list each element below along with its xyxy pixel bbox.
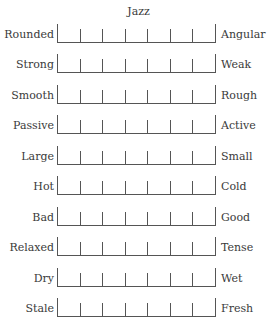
scale-row: RoundedAngular [0, 23, 269, 43]
scale-tick [192, 120, 193, 133]
scale-tick [170, 151, 171, 164]
scale-tick [147, 212, 148, 225]
rating-scale[interactable] [57, 146, 216, 165]
scale-tick [57, 24, 58, 42]
left-anchor-label: Rounded [4, 28, 54, 41]
scale-tick [215, 207, 216, 225]
scale-tick [57, 146, 58, 164]
right-anchor-label: Weak [221, 58, 251, 71]
scale-tick [102, 242, 103, 255]
scale-tick [125, 29, 126, 42]
scale-tick [57, 54, 58, 72]
rating-scale[interactable] [57, 268, 216, 287]
scale-tick [170, 90, 171, 103]
scale-tick [57, 115, 58, 133]
scale-tick [170, 59, 171, 72]
scale-row: LargeSmall [0, 145, 269, 165]
scale-tick [125, 151, 126, 164]
scale-tick [192, 242, 193, 255]
scale-tick [147, 120, 148, 133]
scale-tick [192, 181, 193, 194]
scale-tick [80, 273, 81, 286]
scale-tick [170, 212, 171, 225]
rating-scale[interactable] [57, 115, 216, 134]
scale-tick [102, 90, 103, 103]
right-anchor-label: Rough [221, 89, 257, 102]
scale-row: PassiveActive [0, 114, 269, 134]
rating-scale[interactable] [57, 24, 216, 43]
scale-tick [215, 54, 216, 72]
left-anchor-label: Smooth [11, 89, 54, 102]
scale-tick [125, 212, 126, 225]
right-anchor-label: Cold [221, 180, 247, 193]
scale-tick [147, 59, 148, 72]
left-anchor-label: Dry [34, 272, 54, 285]
right-anchor-label: Small [221, 150, 253, 163]
scale-title: Jazz [4, 5, 269, 18]
scale-tick [57, 298, 58, 316]
scale-row: SmoothRough [0, 84, 269, 104]
scale-tick [215, 85, 216, 103]
scale-tick [125, 90, 126, 103]
left-anchor-label: Relaxed [9, 241, 54, 254]
scale-tick [80, 181, 81, 194]
rating-scale[interactable] [57, 237, 216, 256]
scale-tick [125, 303, 126, 316]
scale-tick [170, 29, 171, 42]
scale-tick [57, 268, 58, 286]
scale-tick [57, 237, 58, 255]
scale-tick [80, 120, 81, 133]
scale-tick [125, 181, 126, 194]
rating-scale[interactable] [57, 176, 216, 195]
scale-tick [102, 151, 103, 164]
scale-tick [102, 29, 103, 42]
scale-tick [170, 273, 171, 286]
scale-tick [57, 85, 58, 103]
right-anchor-label: Good [221, 211, 250, 224]
scale-tick [125, 242, 126, 255]
rating-scale[interactable] [57, 298, 216, 317]
scale-tick [215, 176, 216, 194]
scale-tick [102, 273, 103, 286]
scale-tick [170, 303, 171, 316]
rating-scale[interactable] [57, 207, 216, 226]
scale-tick [102, 212, 103, 225]
right-anchor-label: Angular [221, 28, 266, 41]
scale-tick [80, 151, 81, 164]
scale-tick [192, 303, 193, 316]
scale-tick [215, 146, 216, 164]
right-anchor-label: Active [221, 119, 256, 132]
scale-tick [80, 242, 81, 255]
scale-tick [147, 181, 148, 194]
scale-tick [192, 151, 193, 164]
left-anchor-label: Passive [13, 119, 54, 132]
scale-tick [147, 242, 148, 255]
scale-row: StrongWeak [0, 53, 269, 73]
scale-tick [147, 273, 148, 286]
scale-tick [147, 303, 148, 316]
scale-tick [192, 90, 193, 103]
scale-tick [125, 273, 126, 286]
rating-scale[interactable] [57, 54, 216, 73]
scale-tick [57, 176, 58, 194]
scale-tick [102, 59, 103, 72]
left-anchor-label: Strong [16, 58, 54, 71]
scale-tick [125, 120, 126, 133]
rating-scale[interactable] [57, 85, 216, 104]
scale-tick [147, 151, 148, 164]
scale-tick [192, 59, 193, 72]
scale-tick [147, 90, 148, 103]
scale-tick [192, 212, 193, 225]
scale-tick [80, 212, 81, 225]
scale-tick [170, 120, 171, 133]
scale-row: HotCold [0, 175, 269, 195]
scale-tick [192, 29, 193, 42]
scale-tick [80, 90, 81, 103]
scale-tick [170, 181, 171, 194]
scale-tick [102, 181, 103, 194]
scale-tick [80, 303, 81, 316]
scale-tick [57, 207, 58, 225]
right-anchor-label: Fresh [221, 302, 253, 315]
scale-tick [170, 242, 171, 255]
scale-tick [80, 59, 81, 72]
